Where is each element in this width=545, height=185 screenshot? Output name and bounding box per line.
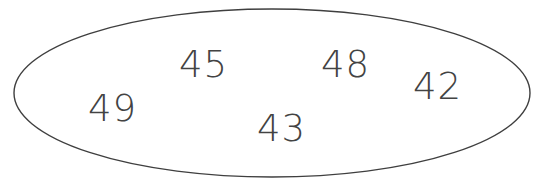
set-element-number: 43 (257, 110, 306, 147)
set-diagram-figure: 49 45 43 48 42 (0, 0, 545, 185)
set-element-number: 49 (88, 90, 137, 127)
set-element-number: 42 (413, 68, 462, 105)
set-element-number: 45 (179, 46, 228, 83)
set-oval-svg (0, 0, 545, 185)
set-element-number: 48 (321, 46, 370, 83)
